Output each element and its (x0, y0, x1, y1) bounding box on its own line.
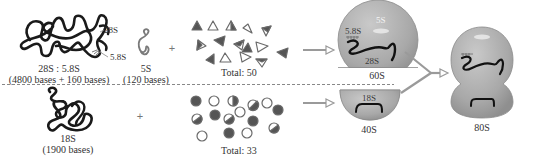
label-18s-bases: (1900 bases) (43, 144, 94, 155)
label-60s-5s: 5S (376, 15, 386, 26)
arrow-to-60s (303, 46, 334, 54)
rrna-28s-58s-coil (21, 15, 109, 57)
plus-sign-large: + (169, 42, 175, 54)
small-subunit-proteins (191, 96, 283, 141)
arrow-to-40s (303, 99, 334, 107)
plus-sign-small: + (137, 110, 143, 122)
label-40s-18s: 18S (362, 93, 376, 104)
label-5s: 5S (141, 63, 152, 74)
ribosome-80s (451, 27, 513, 118)
label-40s: 40S (361, 124, 377, 135)
label-60s-58s: 5.8S (345, 26, 361, 37)
subunit-60s (338, 0, 418, 80)
label-60s-28s: 28S (365, 56, 379, 67)
label-18s: 18S (60, 133, 76, 144)
protein-total-large: Total: 50 (221, 67, 257, 78)
large-subunit-proteins (192, 21, 288, 67)
label-28s-58s-bases: (4800 bases + 160 bases) (9, 74, 110, 85)
label-58s-pointer: 5.8S (110, 52, 126, 63)
label-28s-pointer: 28S (104, 25, 118, 36)
rrna-18s-coil (48, 88, 91, 131)
label-60s: 60S (369, 70, 385, 81)
label-28s-58s-complex: 28S : 5.8S (38, 63, 79, 74)
label-80s: 80S (474, 122, 490, 133)
label-5s-bases: (120 bases) (123, 74, 169, 85)
protein-total-small: Total: 33 (221, 145, 257, 156)
rrna-5s-strand (139, 29, 149, 54)
